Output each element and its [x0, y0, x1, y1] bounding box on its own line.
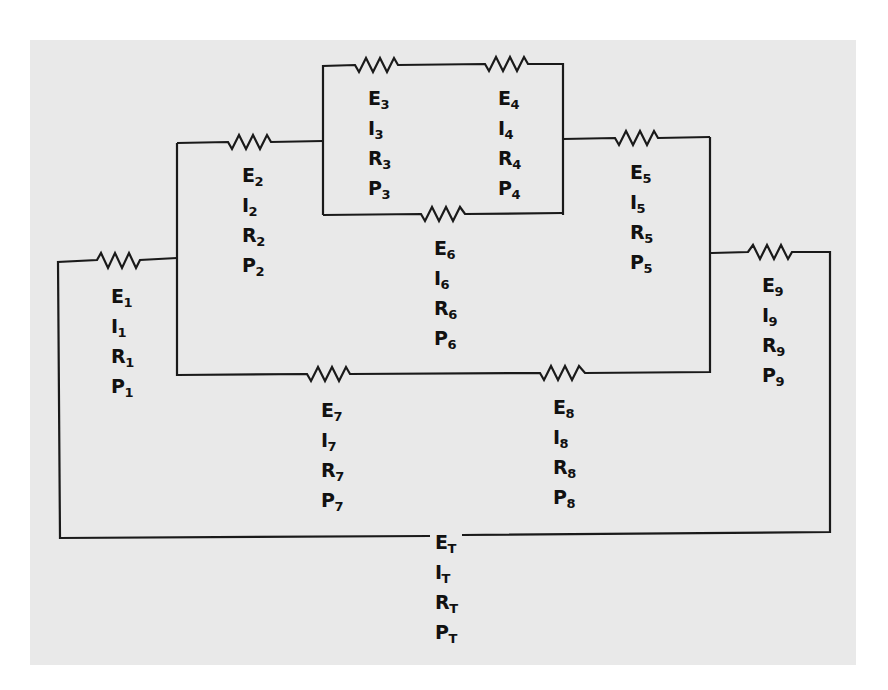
- wire-r6-bottom: [323, 207, 563, 221]
- wire-r2: [177, 135, 323, 149]
- current-label: I6: [434, 263, 457, 293]
- label-r8: E8I8R8P8: [553, 392, 576, 512]
- label-r4: E4I4R4P4: [498, 83, 521, 203]
- current-label: IT: [435, 557, 458, 587]
- wire-r5: [563, 131, 710, 145]
- power-label: P1: [111, 371, 134, 401]
- power-label: P3: [368, 173, 391, 203]
- voltage-label: E5: [630, 157, 653, 187]
- label-r7: E7I7R7P7: [321, 395, 344, 515]
- current-label: I2: [242, 190, 265, 220]
- voltage-label: E2: [242, 160, 265, 190]
- resistance-label: R4: [498, 143, 521, 173]
- current-label: I9: [762, 300, 785, 330]
- current-label: I3: [368, 113, 391, 143]
- voltage-label: E6: [434, 233, 457, 263]
- power-label: P7: [321, 485, 344, 515]
- voltage-label: E9: [762, 270, 785, 300]
- current-label: I8: [553, 422, 576, 452]
- voltage-label: E1: [111, 281, 134, 311]
- voltage-label: E7: [321, 395, 344, 425]
- resistance-label: R8: [553, 452, 576, 482]
- label-r6: E6I6R6P6: [434, 233, 457, 353]
- voltage-label: E3: [368, 83, 391, 113]
- resistance-label: R6: [434, 293, 457, 323]
- current-label: I7: [321, 425, 344, 455]
- voltage-label: E8: [553, 392, 576, 422]
- wire-r3-r4-top: [323, 57, 563, 215]
- power-label: P6: [434, 323, 457, 353]
- resistance-label: R5: [630, 217, 653, 247]
- resistance-label: R3: [368, 143, 391, 173]
- power-label: P9: [762, 360, 785, 390]
- resistance-label: R9: [762, 330, 785, 360]
- current-label: I4: [498, 113, 521, 143]
- voltage-label: ET: [435, 527, 458, 557]
- voltage-label: E4: [498, 83, 521, 113]
- power-label: P4: [498, 173, 521, 203]
- label-r1: E1I1R1P1: [111, 281, 134, 401]
- resistance-label: R2: [242, 220, 265, 250]
- resistance-label: RT: [435, 587, 458, 617]
- label-total: ETITRTPT: [435, 527, 458, 647]
- power-label: PT: [435, 617, 458, 647]
- label-r3: E3I3R3P3: [368, 83, 391, 203]
- current-label: I1: [111, 311, 134, 341]
- resistance-label: R7: [321, 455, 344, 485]
- power-label: P5: [630, 247, 653, 277]
- power-label: P8: [553, 482, 576, 512]
- label-r9: E9I9R9P9: [762, 270, 785, 390]
- label-r5: E5I5R5P5: [630, 157, 653, 277]
- label-r2: E2I2R2P2: [242, 160, 265, 280]
- resistance-label: R1: [111, 341, 134, 371]
- current-label: I5: [630, 187, 653, 217]
- power-label: P2: [242, 250, 265, 280]
